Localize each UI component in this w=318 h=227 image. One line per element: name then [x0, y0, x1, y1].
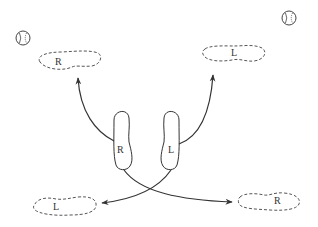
footprint-label: L	[231, 47, 237, 58]
footprint-label: R	[55, 56, 62, 67]
left-foot: L	[161, 111, 179, 169]
foot-label: L	[168, 144, 174, 155]
footwork-diagram: R L L R R L	[0, 0, 318, 227]
baseball-icon-top-right	[282, 11, 296, 25]
arrow-right-foot-to-bottom-right	[124, 170, 232, 202]
right-foot: R	[114, 111, 132, 169]
arrow-right-foot-to-top-left	[78, 78, 114, 141]
baseball-icon-top-left	[16, 31, 30, 45]
footprint-label: R	[274, 195, 281, 206]
arrow-left-foot-to-top-right	[179, 75, 213, 144]
footprint-label: L	[53, 201, 59, 212]
arrow-left-foot-to-bottom-left	[102, 170, 171, 203]
footprint-top-left: R	[39, 51, 101, 69]
footprint-bottom-right: R	[238, 193, 299, 210]
footprint-bottom-left: L	[34, 197, 97, 215]
foot-label: R	[117, 144, 124, 155]
footprint-top-right: L	[203, 46, 265, 62]
